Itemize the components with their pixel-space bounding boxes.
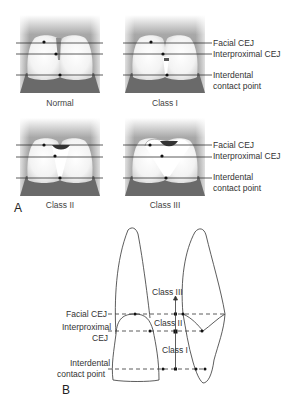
b-label-interproximal: Interproximal xyxy=(62,322,111,332)
b-label-cej: CEJ xyxy=(92,333,108,343)
caption-normal: Normal xyxy=(20,98,100,108)
panel-class-1 xyxy=(123,15,212,93)
b-label-facial-cej: Facial CEJ xyxy=(66,309,107,319)
b-class-3: Class III xyxy=(152,287,183,297)
panel-b-letter: B xyxy=(62,383,70,397)
panel-normal xyxy=(16,15,103,93)
label-facial-cej-row1: Facial CEJ xyxy=(213,38,254,48)
caption-class-2: Class II xyxy=(20,200,100,210)
panel-a-letter: A xyxy=(14,201,22,215)
label-interdental-row2: Interdental xyxy=(213,172,253,182)
label-interproximal-cej-row1: Interproximal CEJ xyxy=(213,49,281,59)
caption-class-3: Class III xyxy=(125,200,205,210)
label-contact-point-row1: contact point xyxy=(213,81,261,91)
b-label-contact-point: contact point xyxy=(57,369,105,379)
b-class-2: Class II xyxy=(154,318,182,328)
label-interproximal-cej-row2: Interproximal CEJ xyxy=(213,151,281,161)
b-label-interdental: Interdental xyxy=(70,358,110,368)
panel-class-3 xyxy=(123,118,212,196)
label-facial-cej-row2: Facial CEJ xyxy=(213,140,254,150)
label-interdental-row1: Interdental xyxy=(213,70,253,80)
label-contact-point-row2: contact point xyxy=(213,183,261,193)
panel-b-drawing xyxy=(112,228,225,383)
b-class-1: Class I xyxy=(162,345,188,355)
dental-diagram xyxy=(0,0,288,397)
panel-class-2 xyxy=(16,118,103,196)
caption-class-1: Class I xyxy=(125,98,205,108)
